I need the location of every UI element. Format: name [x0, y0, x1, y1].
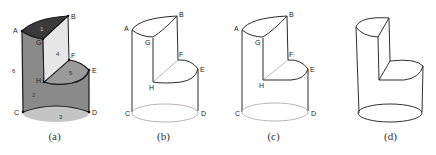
top-chord	[153, 16, 177, 37]
vertex-label-a: A	[13, 27, 18, 34]
vertex-label-g: G	[36, 39, 41, 46]
caption-c: (c)	[219, 130, 328, 142]
bottom-ellipse	[132, 104, 198, 122]
step-arc-top	[288, 60, 308, 69]
vertex-label-b: B	[179, 11, 184, 18]
edge-right	[422, 66, 423, 112]
vertex-label-d: D	[201, 110, 206, 117]
vertex-label-e: E	[310, 66, 315, 73]
vertex-label-a: A	[234, 25, 239, 32]
panel-c: A B G F E H C D (c)	[219, 0, 328, 155]
vertex-label-f: F	[179, 51, 183, 58]
top-arc	[356, 18, 389, 27]
vertex-label-g: G	[145, 39, 150, 46]
face-label-6: 6	[12, 68, 16, 74]
top-front-arc	[132, 30, 153, 37]
edge-b-f	[287, 16, 288, 60]
vertex-label-h: H	[36, 77, 41, 84]
bottom-ellipse	[358, 104, 422, 122]
vertex-label-b: B	[71, 13, 76, 20]
vertex-label-f: F	[289, 51, 293, 58]
panel-d: (d)	[326, 0, 435, 155]
vertex-label-c: C	[125, 110, 130, 117]
edge-h-f	[153, 60, 178, 82]
top-front-arc	[356, 27, 378, 37]
caption-a: (a)	[0, 130, 109, 142]
vertex-label-h: H	[149, 84, 154, 91]
vertex-label-d: D	[311, 110, 316, 117]
caption-b: (b)	[109, 130, 218, 142]
top-chord	[378, 18, 389, 37]
top-chord	[263, 16, 287, 37]
vertex-label-a: A	[124, 25, 129, 32]
step-arc-top	[178, 60, 198, 69]
edge-back	[389, 18, 390, 61]
vertex-label-b: B	[289, 11, 294, 18]
vertex-label-h: H	[259, 82, 264, 89]
vertex-label-e: E	[200, 66, 205, 73]
edge-b-f	[177, 16, 178, 60]
edge-inner	[378, 37, 379, 80]
caption-d: (d)	[336, 130, 436, 142]
edge-h-f	[263, 60, 288, 80]
vertex-label-d: D	[92, 109, 97, 116]
step-arc-top	[390, 60, 423, 66]
vertex-label-f: F	[71, 52, 75, 59]
top-front-arc	[242, 30, 263, 37]
panel-b: A B G F E H C D (b)	[109, 0, 218, 155]
vertex-label-c: C	[14, 109, 19, 116]
vertex-label-g: G	[255, 39, 260, 46]
edge-step-chord	[379, 61, 390, 80]
edge-left	[356, 27, 359, 113]
vertex-label-e: E	[92, 67, 97, 74]
panel-a: A B G F E H C D 1 4 5 6 2 3 (a)	[0, 0, 109, 155]
bottom-ellipse	[242, 103, 308, 121]
vertex-label-c: C	[235, 110, 240, 117]
